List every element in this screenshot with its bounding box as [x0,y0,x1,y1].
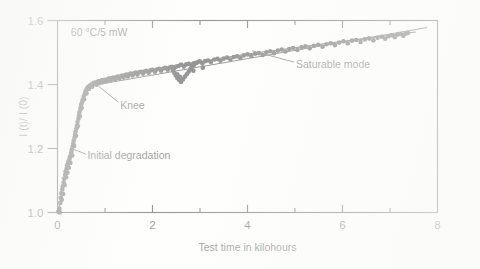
data-point [375,35,380,40]
data-point [64,175,69,180]
data-point [307,46,312,51]
data-point [328,41,333,46]
saturable-mode-label: Saturable mode [296,58,370,70]
data-point [358,40,363,45]
data-point [62,183,67,188]
data-point [316,43,321,48]
data-point [59,197,64,202]
data-point [61,192,66,197]
y-axis-tick-label: 1.2 [28,143,44,155]
knee-label: Knee [120,99,145,111]
figure-root: 024681.01.21.41.6Test time in kilohoursI… [0,0,480,269]
outlier-data-point [201,66,206,71]
data-point [333,43,338,48]
data-point [324,42,329,47]
data-point [367,36,372,41]
x-axis-tick-label: 6 [339,219,345,231]
data-point [350,38,355,43]
data-point [58,210,63,215]
data-point [74,133,79,138]
x-axis-title: Test time in kilohours [198,241,296,253]
x-axis-tick-label: 2 [149,219,155,231]
data-point [371,38,376,43]
x-axis-tick-label: 4 [244,219,251,231]
data-point [295,48,300,53]
data-point [82,97,87,102]
data-point [84,91,89,96]
data-point [291,46,296,51]
data-point [72,144,77,149]
x-axis-tick-label: 0 [54,219,60,231]
knee-label-leader-line [98,86,118,102]
data-point [303,44,308,49]
data-point [65,171,70,176]
y-axis-tick-label: 1.6 [28,15,44,27]
y-axis-tick-label: 1.4 [28,79,45,91]
degradation-scatter-chart: 024681.01.21.41.6Test time in kilohoursI… [0,0,480,269]
y-axis-title: I (t)/ I (0) [17,96,29,136]
data-point [78,114,83,119]
data-point [79,106,84,111]
condition-label: 60 °C/5 mW [71,26,128,38]
data-point [320,44,325,49]
initial-degradation-label-leader-line [72,149,86,155]
data-point [76,124,81,129]
data-point [70,153,75,158]
plot-frame [58,21,438,213]
outlier-data-point [191,68,196,73]
outlier-data-point [198,59,203,64]
data-point [67,165,72,170]
data-point [354,38,359,43]
data-point [345,41,350,46]
initial-degradation-label: Initial degradation [87,149,170,161]
data-point [337,40,342,45]
data-point [283,49,288,54]
x-axis-tick-label: 8 [434,219,440,231]
data-point [406,31,411,36]
y-axis-tick-label: 1.0 [28,207,44,219]
data-point [68,161,73,166]
data-point [312,43,317,48]
data-point [341,39,346,44]
data-point [363,37,368,42]
data-point [272,51,277,56]
